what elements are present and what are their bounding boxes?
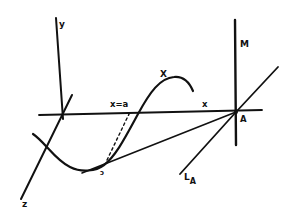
curve-point-mark: ɔ bbox=[100, 169, 104, 177]
y-axis bbox=[56, 18, 63, 119]
vertical-line-m-label: M bbox=[240, 39, 249, 49]
line-l-a-label: LA bbox=[184, 172, 197, 186]
point-a-label: A bbox=[240, 114, 247, 124]
diagram-canvas: y x=a x z M LA A X ɔ bbox=[0, 0, 294, 220]
x-axis-label: x bbox=[202, 99, 208, 109]
y-axis-label: y bbox=[59, 19, 65, 29]
z-axis-label: z bbox=[22, 199, 27, 209]
curve-x-label: X bbox=[160, 69, 167, 79]
vertical-line-m bbox=[235, 20, 236, 145]
line-through-a bbox=[236, 67, 278, 112]
line-l-a bbox=[180, 112, 236, 174]
point-a bbox=[234, 110, 238, 114]
x-eq-a-label: x=a bbox=[110, 99, 129, 109]
